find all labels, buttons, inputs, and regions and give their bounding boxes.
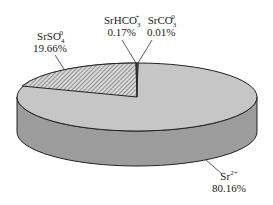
leader-srso4 xyxy=(55,55,64,69)
label-srhco3: SrHCO3+ 0.17% xyxy=(104,14,139,38)
label-sr2plus: Sr2+ 80.16% xyxy=(212,170,246,194)
label-srso4: SrSO40 19.66% xyxy=(33,30,67,54)
leader-srco3 xyxy=(138,40,152,63)
leader-srhco3 xyxy=(122,40,136,63)
label-srco3: SrCO30 0.01% xyxy=(147,14,175,38)
